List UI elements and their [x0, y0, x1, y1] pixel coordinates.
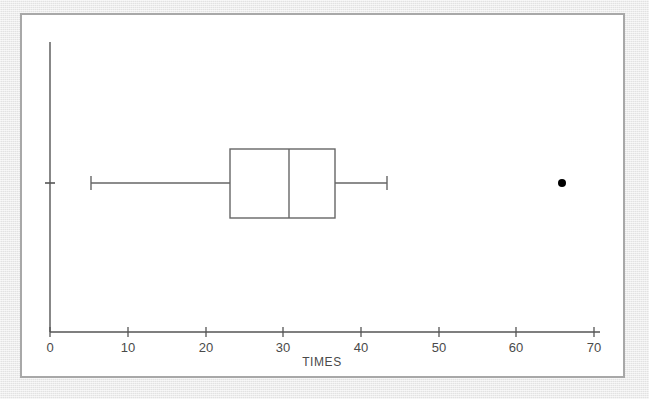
chart-panel	[20, 13, 625, 378]
